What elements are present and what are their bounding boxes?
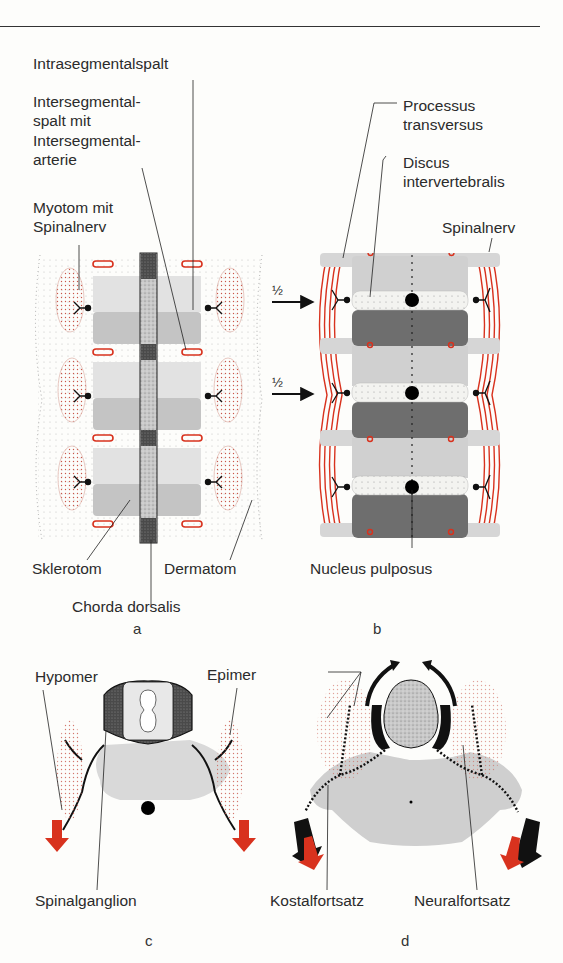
label-intersegmental-line2: spalt mit <box>33 111 91 130</box>
label-spinalnerv-b: Spinalnerv <box>442 218 515 237</box>
panel-letter-c: c <box>145 932 153 949</box>
label-sklerotom: Sklerotom <box>32 559 102 578</box>
label-epimer: Epimer <box>207 665 256 684</box>
label-discus-line1: Discus <box>403 153 450 172</box>
label-discus-line2: intervertebralis <box>403 172 505 191</box>
label-kostalfortsatz: Kostalfortsatz <box>270 891 364 910</box>
label-myotom-line1: Myotom mit <box>33 198 113 217</box>
label-intrasegmentalspalt: Intrasegmentalspalt <box>33 54 168 73</box>
panel-letter-d: d <box>401 932 409 949</box>
panel-d-drawing <box>292 660 542 890</box>
label-spinalganglion: Spinalganglion <box>35 891 137 910</box>
label-intersegmental-line1: Intersegmental- <box>33 92 141 111</box>
label-processus-line1: Processus <box>403 96 475 115</box>
fraction-label-2: ½ <box>272 375 283 390</box>
label-processus-line2: transversus <box>403 115 483 134</box>
label-neuralfortsatz: Neuralfortsatz <box>414 891 510 910</box>
label-intersegmental-line3: Intersegmental- <box>33 131 141 150</box>
panel-c-drawing <box>43 681 256 890</box>
label-nucleus-pulposus: Nucleus pulposus <box>310 559 432 578</box>
label-hypomer: Hypomer <box>35 667 98 686</box>
label-intersegmental-line4: arterie <box>33 150 77 169</box>
label-dermatom: Dermatom <box>164 559 236 578</box>
label-chorda-dorsalis: Chorda dorsalis <box>72 597 181 616</box>
label-myotom-line2: Spinalnerv <box>33 217 106 236</box>
fraction-label-1: ½ <box>272 283 283 298</box>
panel-letter-b: b <box>373 620 381 637</box>
panel-letter-a: a <box>133 620 141 637</box>
